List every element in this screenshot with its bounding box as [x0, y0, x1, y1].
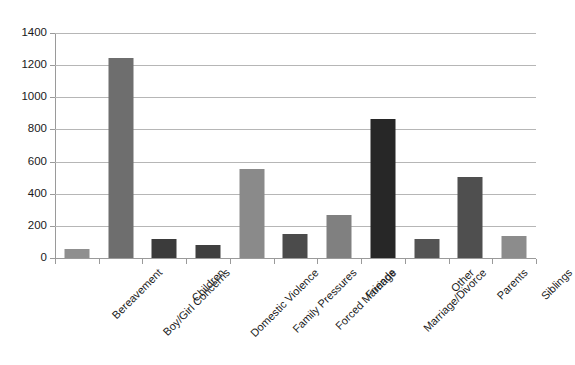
x-label-bereavement: Bereavement — [110, 267, 164, 321]
x-tick — [186, 259, 187, 264]
y-tick-0 — [50, 258, 55, 259]
x-tick — [492, 259, 493, 264]
y-tick-label: 400 — [28, 188, 47, 200]
y-tick-1400 — [50, 33, 55, 34]
y-tick-600 — [50, 162, 55, 163]
y-tick-label: 600 — [28, 156, 47, 168]
bar-slot — [405, 33, 449, 258]
y-tick-400 — [50, 194, 55, 195]
x-tick — [99, 259, 100, 264]
bar-slot — [186, 33, 230, 258]
bar-slot — [317, 33, 361, 258]
x-label-siblings: Siblings — [539, 267, 574, 302]
bar-bereavement[interactable] — [64, 249, 89, 258]
x-label-parents: Parents — [496, 267, 531, 302]
y-tick-label: 1200 — [21, 59, 47, 71]
bar-slot — [142, 33, 186, 258]
x-axis-ticks — [55, 259, 536, 265]
bar-siblings[interactable] — [502, 236, 527, 258]
plot-area — [55, 33, 536, 258]
bar-domestic-violence[interactable] — [196, 245, 221, 258]
bar-slot — [361, 33, 405, 258]
x-tick — [361, 259, 362, 264]
bar-other[interactable] — [414, 239, 439, 258]
x-label-domestic-violence: Domestic Violence — [249, 267, 321, 339]
y-axis-labels: 0200400600800100012001400 — [0, 0, 47, 365]
bar-slot — [99, 33, 143, 258]
y-tick-1000 — [50, 97, 55, 98]
bar-slot — [274, 33, 318, 258]
y-tick-label: 0 — [41, 252, 47, 264]
x-tick — [142, 259, 143, 264]
bar-slot — [449, 33, 493, 258]
bar-friends[interactable] — [327, 215, 352, 258]
x-tick — [55, 259, 56, 264]
bar-slot — [55, 33, 99, 258]
bar-forced-marriage[interactable] — [283, 234, 308, 258]
y-tick-label: 1400 — [21, 27, 47, 39]
bar-family-pressures[interactable] — [239, 169, 264, 258]
y-tick-label: 200 — [28, 220, 47, 232]
x-tick — [274, 259, 275, 264]
bar-boy-girl-concerns[interactable] — [108, 58, 133, 258]
x-label-friends: Friends — [364, 267, 398, 301]
bar-children[interactable] — [152, 239, 177, 258]
x-tick — [317, 259, 318, 264]
x-tick — [536, 259, 537, 264]
bar-slot — [492, 33, 536, 258]
bar-marriage-divorce[interactable] — [370, 119, 395, 258]
y-tick-label: 1000 — [21, 91, 47, 103]
x-tick — [405, 259, 406, 264]
y-tick-200 — [50, 226, 55, 227]
y-tick-label: 800 — [28, 123, 47, 135]
y-tick-1200 — [50, 65, 55, 66]
x-tick — [449, 259, 450, 264]
y-tick-800 — [50, 129, 55, 130]
bar-slot — [230, 33, 274, 258]
bar-parents[interactable] — [458, 177, 483, 258]
x-tick — [230, 259, 231, 264]
